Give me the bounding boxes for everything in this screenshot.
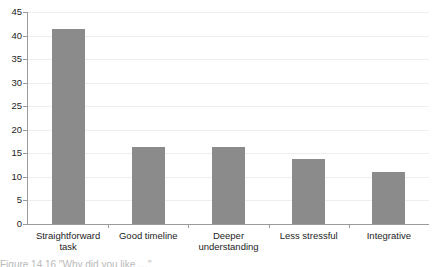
x-tick-label: Integrative: [349, 230, 429, 241]
y-tick-mark: [23, 177, 27, 178]
x-tick-mark: [108, 224, 109, 228]
y-tick-mark: [23, 153, 27, 154]
y-tick-label: 20: [0, 125, 22, 134]
x-tick-label: Deeperunderstanding: [188, 230, 268, 252]
bar: [292, 159, 325, 224]
x-tick-label-line: Less stressful: [269, 230, 349, 241]
x-tick-label-line: task: [28, 241, 108, 252]
x-tick-label: Straightforwardtask: [28, 230, 108, 252]
x-tick-label-line: Integrative: [349, 230, 429, 241]
x-tick-label: Less stressful: [269, 230, 349, 241]
y-tick-label: 10: [0, 172, 22, 181]
bar: [132, 147, 165, 224]
bar: [52, 29, 85, 225]
x-tick-label: Good timeline: [108, 230, 188, 241]
gridline: [28, 224, 429, 225]
y-tick-mark: [23, 224, 27, 225]
gridline: [28, 106, 429, 107]
y-tick-label: 5: [0, 195, 22, 204]
y-tick-mark: [23, 106, 27, 107]
x-tick-mark: [349, 224, 350, 228]
y-tick-label: 25: [0, 101, 22, 110]
y-tick-label: 35: [0, 54, 22, 63]
bar: [372, 172, 405, 224]
gridline: [28, 36, 429, 37]
plot-area: [28, 12, 429, 224]
y-tick-label: 45: [0, 7, 22, 16]
y-tick-label: 30: [0, 78, 22, 87]
y-tick-mark: [23, 200, 27, 201]
x-tick-label-line: understanding: [188, 241, 268, 252]
y-tick-label: 40: [0, 31, 22, 40]
gridline: [28, 83, 429, 84]
bar: [212, 147, 245, 224]
y-tick-label: 15: [0, 148, 22, 157]
x-tick-label-line: Deeper: [188, 230, 268, 241]
y-tick-mark: [23, 59, 27, 60]
gridline: [28, 130, 429, 131]
gridline: [28, 59, 429, 60]
y-tick-mark: [23, 12, 27, 13]
figure-container: 051015202530354045 StraightforwardtaskGo…: [0, 0, 435, 267]
gridline: [28, 12, 429, 13]
y-tick-mark: [23, 36, 27, 37]
y-tick-mark: [23, 130, 27, 131]
x-tick-label-line: Good timeline: [108, 230, 188, 241]
x-tick-mark: [269, 224, 270, 228]
x-tick-mark: [188, 224, 189, 228]
y-tick-mark: [23, 83, 27, 84]
y-tick-label: 0: [0, 219, 22, 228]
figure-caption: Figure 14.16 "Why did you like …": [0, 259, 435, 267]
x-tick-label-line: Straightforward: [28, 230, 108, 241]
